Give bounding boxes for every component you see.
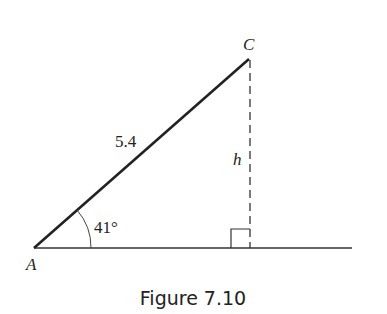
- vertex-label-c: C: [243, 35, 255, 54]
- hypotenuse-length-label: 5.4: [115, 132, 137, 151]
- hypotenuse-ac: [34, 59, 249, 248]
- figure-caption: Figure 7.10: [140, 287, 246, 309]
- vertex-label-a: A: [25, 255, 37, 274]
- angle-label: 41°: [94, 218, 118, 237]
- triangle-diagram: C A 5.4 h 41° Figure 7.10: [0, 0, 387, 314]
- height-label: h: [233, 150, 242, 169]
- right-angle-marker: [231, 229, 250, 248]
- angle-arc: [77, 210, 91, 248]
